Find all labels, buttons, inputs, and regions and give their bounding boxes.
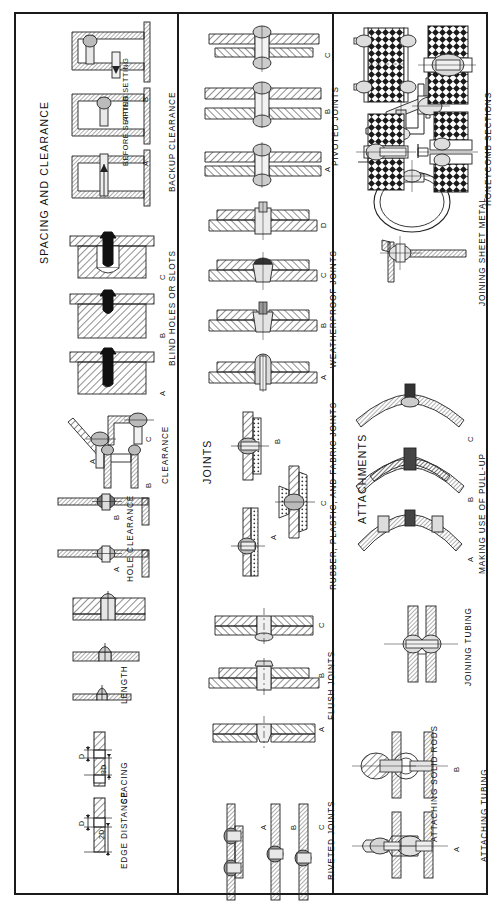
dimension-label-edge-distance-d: D bbox=[78, 821, 85, 826]
figure-edge-distance bbox=[54, 796, 164, 854]
group-label-blind-holes-or-slots: BLIND HOLES OR SLOTS bbox=[168, 250, 177, 366]
item-letter-blind-holes-c: C bbox=[158, 274, 167, 280]
dimension-label-spacing-3d: 3D bbox=[100, 764, 107, 774]
figure-length-c bbox=[71, 594, 151, 628]
figure-pull-up-c bbox=[354, 382, 466, 438]
item-letter-clearance-b: B bbox=[144, 482, 153, 488]
rivet-application-chart: SPACING AND CLEARANCE D 2D bbox=[0, 0, 502, 907]
group-label-hole-clearance: HOLE CLEARANCE bbox=[126, 495, 135, 582]
item-letter-clearance-a: A bbox=[88, 458, 97, 464]
group-label-joining-tubing: JOINING TUBING bbox=[464, 607, 473, 686]
figure-blind-holes-b bbox=[64, 286, 160, 344]
figure-flush-joints-c bbox=[209, 608, 319, 646]
figure-flush-joints-a bbox=[209, 714, 319, 750]
group-label-backup-clearance: BACKUP CLEARANCE bbox=[168, 92, 177, 192]
item-letter-flush-joints-a: A bbox=[317, 726, 326, 732]
figure-honeycomb-2 bbox=[418, 22, 478, 108]
item-letter-hole-clearance-a: A bbox=[112, 566, 121, 572]
item-letter-weatherproof-b: B bbox=[319, 322, 328, 328]
item-letter-riveted-joints-c: C bbox=[317, 824, 326, 830]
item-letter-flush-joints-c: C bbox=[317, 622, 326, 628]
item-letter-blind-holes-a: A bbox=[158, 390, 167, 396]
figure-weatherproof-a bbox=[205, 354, 321, 394]
chart-frame: SPACING AND CLEARANCE D 2D bbox=[14, 12, 488, 895]
item-letter-weatherproof-c: C bbox=[319, 272, 328, 278]
figure-pivoted-joints-b bbox=[201, 82, 325, 130]
item-letter-weatherproof-a: A bbox=[319, 374, 328, 380]
item-letter-pull-up-c: C bbox=[466, 436, 475, 442]
item-letter-flush-joints-b: B bbox=[317, 672, 326, 678]
group-label-length: LENGTH bbox=[120, 665, 129, 704]
item-letter-pull-up-a: A bbox=[466, 556, 475, 562]
figure-flush-joints-b bbox=[205, 658, 323, 700]
panel-spacing-and-clearance: SPACING AND CLEARANCE D 2D bbox=[16, 14, 177, 893]
dimension-label-edge-distance-2d: 2D bbox=[98, 829, 105, 839]
panel-attachments: ATTACHMENTS A bbox=[334, 14, 486, 893]
figure-hole-clearance-a bbox=[56, 544, 156, 578]
group-label-making-use-of-pull-up: MAKING USE OF PULL-UP bbox=[478, 453, 487, 574]
item-letter-rubber-plastic-fabric-b: B bbox=[273, 438, 282, 444]
panel-title-spacing-and-clearance: SPACING AND CLEARANCE bbox=[38, 101, 50, 264]
figure-pull-up-a bbox=[354, 502, 466, 558]
figure-rubber-plastic-fabric-a bbox=[229, 506, 269, 578]
group-label-clearance: CLEARANCE bbox=[161, 426, 170, 484]
figure-rubber-plastic-fabric-c bbox=[273, 464, 319, 540]
group-label-attaching-tubing: ATTACHING TUBING bbox=[480, 768, 489, 862]
figure-honeycomb-1 bbox=[354, 22, 418, 108]
figure-weatherproof-c bbox=[205, 252, 321, 292]
figure-pivoted-joints-a bbox=[201, 142, 325, 190]
figure-blind-holes-a bbox=[64, 344, 160, 402]
item-letter-attaching-tubing-b: B bbox=[452, 766, 461, 772]
figure-joining-tubing bbox=[382, 604, 460, 684]
group-label-attaching-solid-rods: ATTACHING SOLID RODS bbox=[430, 725, 439, 842]
figure-honeycomb-3 bbox=[354, 110, 418, 194]
item-letter-rubber-plastic-fabric-c: C bbox=[319, 500, 328, 506]
figure-joining-sheet-metal-bracket bbox=[354, 236, 470, 308]
figure-pivoted-joints-c bbox=[201, 26, 325, 74]
figure-spacing bbox=[54, 730, 164, 788]
figure-pull-up-b bbox=[354, 442, 466, 498]
figure-rubber-plastic-fabric-b bbox=[229, 410, 273, 482]
item-letter-backup-clearance-a: A bbox=[141, 160, 150, 166]
figure-honeycomb-4 bbox=[418, 110, 480, 194]
dimension-label-spacing-d: D bbox=[78, 754, 85, 759]
item-letter-hole-clearance-b: B bbox=[112, 514, 121, 520]
item-letter-blind-holes-b: B bbox=[158, 332, 167, 338]
group-label-joining-sheet-metal: JOINING SHEET METAL bbox=[478, 197, 487, 306]
panel-joints: JOINTS A B bbox=[179, 14, 332, 893]
item-letter-attaching-tubing-a: A bbox=[452, 846, 461, 852]
figure-backup-clearance-b bbox=[62, 22, 166, 88]
panel-title-joints: JOINTS bbox=[201, 439, 213, 484]
figure-riveted-joints-a bbox=[217, 802, 257, 902]
figure-length-b bbox=[71, 641, 145, 667]
item-letter-weatherproof-d: D bbox=[319, 222, 328, 228]
item-letter-backup-clearance-b: B bbox=[141, 96, 150, 102]
item-letter-clearance-c: C bbox=[144, 436, 153, 442]
figure-attaching-solid-rods-1 bbox=[350, 810, 420, 880]
figure-hole-clearance-b bbox=[56, 492, 156, 526]
item-letter-pivoted-joints-a: A bbox=[323, 166, 332, 172]
figure-riveted-joints-c bbox=[289, 802, 323, 902]
item-letter-pivoted-joints-c: C bbox=[323, 52, 332, 58]
group-label-spacing: SPACING bbox=[120, 761, 129, 804]
figure-weatherproof-d bbox=[205, 202, 321, 242]
figure-attaching-solid-rods-2 bbox=[350, 730, 420, 800]
group-label-honeycomb-sections: HONEYCOMB SECTIONS bbox=[484, 92, 493, 206]
item-letter-pull-up-b: B bbox=[466, 496, 475, 502]
figure-blind-holes-c bbox=[64, 228, 160, 286]
figure-weatherproof-b bbox=[205, 302, 321, 342]
